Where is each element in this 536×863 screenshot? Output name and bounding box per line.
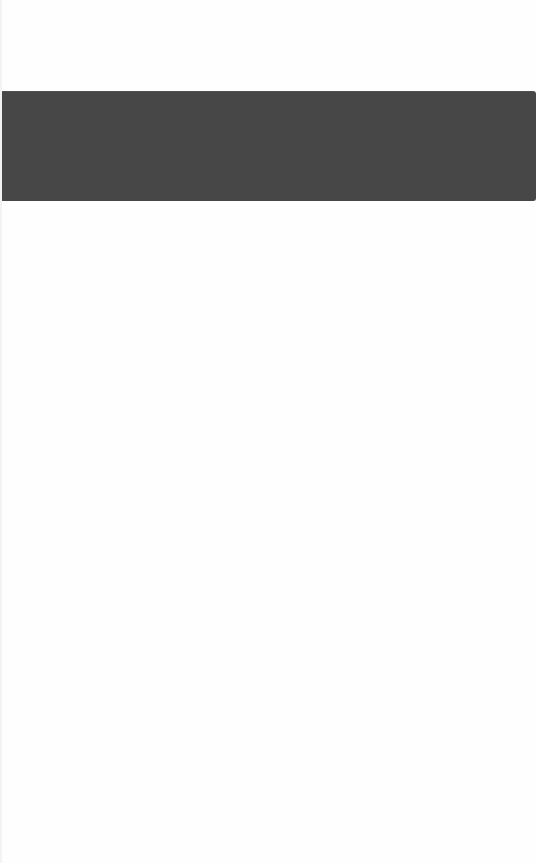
page	[0, 0, 536, 863]
header-banner	[0, 91, 536, 201]
content-area	[0, 201, 536, 863]
top-spacer	[0, 0, 536, 91]
left-edge-divider	[0, 0, 2, 863]
